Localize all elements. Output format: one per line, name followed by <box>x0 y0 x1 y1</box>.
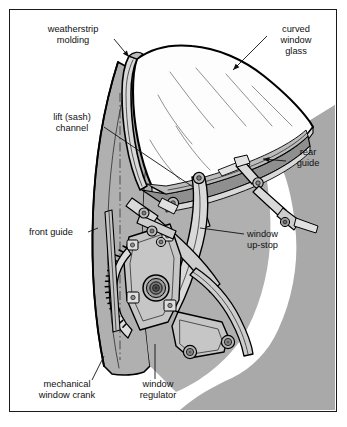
label-window-up-stop: windowup-stop <box>246 229 278 250</box>
label-line: rear <box>300 147 317 157</box>
label-line: window <box>246 229 278 239</box>
label-line: front guide <box>29 227 73 237</box>
label-rear-guide: rearguide <box>297 147 320 168</box>
label-line: weatherstrip <box>47 24 99 34</box>
label-window-regulator: windowregulator <box>140 379 177 400</box>
label-line: mechanical <box>43 379 90 389</box>
leader-line-mechanical-window-crank <box>92 356 104 380</box>
label-line: lift (sash) <box>53 112 91 122</box>
label-weatherstrip-molding: weatherstripmolding <box>47 24 99 45</box>
label-front-guide: front guide <box>29 227 73 237</box>
window-regulator <box>124 224 181 330</box>
label-line: guide <box>297 158 320 168</box>
label-mechanical-window-crank: mechanicalwindow crank <box>38 379 96 400</box>
label-line: curved <box>282 24 310 34</box>
label-line: molding <box>57 35 90 45</box>
label-curved-window-glass: curvedwindowglass <box>279 24 311 56</box>
label-line: channel <box>56 123 89 133</box>
label-line: up-stop <box>247 240 278 250</box>
label-lift-sash-channel: lift (sash)channel <box>53 112 91 133</box>
figure-page: weatherstripmoldingcurvedwindowglasslift… <box>0 0 347 427</box>
label-line: glass <box>285 46 307 56</box>
label-line: window <box>279 35 311 45</box>
label-line: regulator <box>140 390 177 400</box>
technical-illustration: weatherstripmoldingcurvedwindowglasslift… <box>0 0 347 427</box>
label-line: window <box>141 379 173 389</box>
label-line: window crank <box>38 390 96 400</box>
